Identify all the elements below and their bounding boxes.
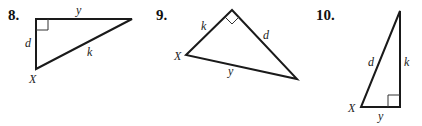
label-9-y: y [227, 64, 234, 78]
label-10-d: d [368, 55, 375, 69]
triangle-9: k d y X [173, 10, 297, 79]
label-8-y: y [75, 3, 82, 17]
right-angle-marker-10 [388, 95, 400, 107]
label-10-k: k [404, 55, 410, 69]
right-angle-marker-8 [36, 19, 48, 30]
label-10-X: X [347, 101, 356, 115]
label-9-k: k [201, 19, 207, 33]
triangle-8: y d k X [25, 3, 132, 86]
triangle-figures: y d k X k d y X d k y X [0, 0, 422, 126]
label-8-X: X [28, 72, 37, 86]
right-angle-marker-9 [225, 17, 239, 24]
label-8-k: k [87, 45, 93, 59]
triangle-10: d k y X [347, 11, 410, 123]
label-10-y: y [377, 109, 384, 123]
label-8-d: d [25, 36, 32, 50]
label-9-X: X [173, 49, 182, 63]
label-9-d: d [263, 28, 270, 42]
